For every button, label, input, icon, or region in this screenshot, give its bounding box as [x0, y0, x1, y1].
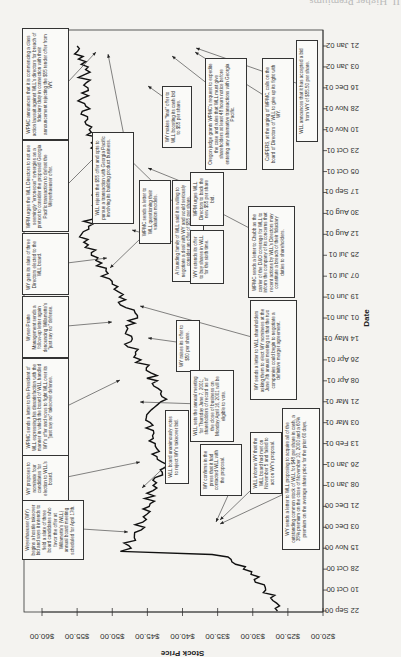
price-tick-label: $40.00 — [170, 632, 195, 641]
stock-timeline-chart: II. Higher Premiums $20.00$25.00$30.00$3… — [0, 0, 401, 657]
annotation-text: WY raises its offer to $50 per share. — [179, 324, 197, 368]
date-tick-label: 10 Oct 00 — [326, 585, 359, 594]
annotation-text: WLL informs WY that the WLL board had me… — [253, 436, 279, 490]
date-tick-label: 21 Mar 01 — [325, 397, 359, 406]
arrowhead-icon — [148, 337, 152, 340]
annotation-box: WY sends a letter to WLL shareholders as… — [250, 300, 297, 400]
annotation-text: WLL rejects the $55 offer and opts to pu… — [95, 136, 131, 220]
annotation-box: WY proposes to nominate four candidates … — [22, 455, 69, 501]
annotation-arrow — [67, 462, 140, 477]
annotation-box: CalPERS, at the urging of WPMC, calls on… — [262, 58, 294, 170]
date-tick-label: 12 Aug 01 — [325, 229, 359, 238]
annotation-box: WLL informs WY that the WLL board had me… — [250, 432, 282, 494]
date-tick-label: 23 Oct 01 — [326, 146, 359, 155]
date-tick-label: 08 Jan 01 — [326, 480, 359, 489]
annotation-box: WY sends a letter to WLL proposing to ac… — [282, 408, 320, 550]
annotation-text: Wyser-Pratte Management sends a follow-u… — [25, 300, 66, 354]
annotation-text: WY sends a letter to WLL shareholders as… — [253, 304, 294, 396]
date-tick-label: 25 Jul 01 — [329, 250, 359, 259]
date-tick-label: 03 Jan 02 — [326, 62, 359, 71]
annotation-box: WY makes "final" offer to WLL boosting i… — [162, 86, 192, 148]
date-tick-label: 15 Nov 00 — [325, 543, 359, 552]
annotation-box: WPMC sends a letter to Chubb as the carr… — [248, 206, 295, 298]
arrowhead-icon — [195, 52, 199, 55]
date-tick-label: 05 Oct 01 — [326, 167, 359, 176]
price-tick-label: $60.00 — [29, 632, 54, 641]
date-tick-label: 28 Oct 00 — [326, 564, 359, 573]
annotation-box: WLL board unanimously votes to reject WY… — [165, 410, 189, 484]
date-tick-label: 21 Jan 02 — [326, 41, 359, 50]
price-tick-label: $25.00 — [275, 632, 300, 641]
annotation-box: WPMC announces that it is commencing a c… — [22, 28, 69, 140]
annotation-text: WPM urges WLL Directors to back the new … — [193, 176, 221, 222]
annotation-text: WY gets its slate of three Directors ele… — [25, 237, 66, 291]
annotation-box: WPMC sends a letter to WLL questioning t… — [139, 180, 171, 244]
price-tick-label: $20.00 — [310, 632, 335, 641]
price-tick-label: $50.00 — [99, 632, 124, 641]
date-tick-label: 28 Nov 01 — [325, 104, 359, 113]
annotation-box: WY confirms in the press that it had con… — [200, 444, 242, 496]
annotation-text: WPMC sends a letter to WLL questioning t… — [142, 184, 168, 240]
arrowhead-icon — [172, 56, 176, 59]
arrowhead-icon — [107, 54, 110, 58]
annotation-arrow — [67, 380, 120, 406]
annotation-box: WY raises its offer to $50 per share. — [176, 320, 200, 372]
date-tick-label: 14 May 01 — [324, 334, 359, 343]
annotation-text: WPMC sends a letter to the President of … — [25, 362, 66, 452]
page-header: II. Higher Premiums — [250, 0, 400, 8]
annotation-box: WY gets its slate of three Directors ele… — [22, 233, 69, 295]
arrowhead-icon — [148, 168, 152, 171]
date-tick-label: 13 Feb 01 — [325, 439, 359, 448]
date-tick-label: 26 Jan 01 — [326, 460, 359, 469]
annotation-box: WLL sets the annual meeting for Thursday… — [190, 370, 234, 442]
annotation-box: Weyerhaeuser (WY) begins a hostile takeo… — [22, 500, 84, 560]
date-tick-label: 16 Dec 01 — [325, 83, 359, 92]
annotation-box: WPM urges WLL Directors to back the new … — [190, 172, 224, 226]
date-tick-label: 08 Apr 01 — [327, 376, 359, 385]
annotation-text: WPMC announces that it is commencing a c… — [25, 32, 66, 136]
annotation-text: CalPERS, at the urging of WPMC, calls on… — [265, 62, 291, 166]
date-tick-label: 01 Jun 01 — [326, 313, 359, 322]
date-tick-label: 10 Nov 01 — [325, 125, 359, 134]
annotation-box: WLL announces that it has accepted a bid… — [296, 40, 318, 142]
date-tick-label: 26 Apr 01 — [327, 355, 359, 364]
annotation-text: WY extends its offer to buy shares in WL… — [193, 234, 221, 280]
annotation-text: WLL sets the annual meeting for Thursday… — [193, 374, 231, 438]
arrowhead-icon — [103, 257, 107, 260]
price-tick-label: $45.00 — [135, 632, 160, 641]
arrowhead-icon — [148, 86, 152, 89]
arrowhead-icon — [124, 530, 128, 533]
annotation-text: WY confirms in the press that it had con… — [203, 448, 239, 492]
arrowhead-icon — [196, 48, 200, 51]
annotation-text: Weyerhaeuser (WY) begins a hostile takeo… — [25, 504, 81, 556]
annotation-text: WY makes "final" offer to WLL boosting i… — [165, 90, 189, 144]
arrowhead-icon — [132, 230, 136, 233]
annotation-text: WPM urges the WLL Directors to not use s… — [25, 144, 66, 228]
date-tick-label: 30 Aug 01 — [325, 208, 359, 217]
price-axis-title: Stock Price — [160, 649, 204, 657]
annotation-text: WPMC sends a letter to Chubb as the carr… — [251, 210, 292, 294]
date-tick-label: 22 Sep 00 — [325, 606, 359, 615]
price-tick-label: $55.00 — [64, 632, 89, 641]
annotation-box: Wyser-Pratte Management sends a follow-u… — [22, 296, 69, 358]
date-tick-label: 03 Dec 00 — [325, 522, 359, 531]
annotation-box: Oregon judge grants WPMC's request to ex… — [205, 58, 247, 170]
date-tick-label: 19 Jun 01 — [326, 292, 359, 301]
annotation-arrow — [82, 529, 128, 532]
annotation-box: WY extends its offer to buy shares in WL… — [190, 230, 224, 284]
date-axis-title: Date — [362, 309, 371, 327]
price-tick-label: $35.00 — [205, 632, 230, 641]
annotation-box: WPMC sends a letter to the President of … — [22, 358, 69, 456]
date-tick-label: 17 Sep 01 — [325, 187, 359, 196]
annotation-text: WLL announces that it has accepted a bid… — [299, 44, 315, 138]
arrowhead-icon — [136, 461, 140, 464]
annotation-text: WY sends a letter to WLL proposing to ac… — [285, 412, 317, 546]
annotation-text: Oregon judge grants WPMC's request to ex… — [208, 62, 244, 166]
arrowhead-icon — [140, 401, 144, 404]
annotation-arrow — [67, 322, 112, 326]
date-tick-label: 03 Mar 01 — [325, 418, 359, 427]
annotation-box: WLL rejects the $55 offer and opts to pu… — [92, 132, 134, 224]
date-tick-label: 21 Dec 00 — [325, 501, 359, 510]
annotation-box: WPM urges the WLL Directors to not use s… — [22, 140, 69, 232]
annotation-text: WLL board unanimously votes to reject WY… — [168, 414, 186, 480]
